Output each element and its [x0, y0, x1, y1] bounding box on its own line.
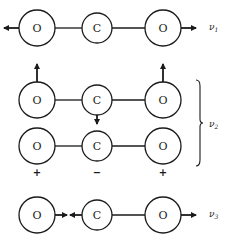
- mode-label-v1: ν1: [209, 22, 218, 33]
- mode-v2-row-a: O C O: [19, 64, 181, 124]
- atom-label: O: [158, 140, 167, 153]
- atom-label: O: [32, 209, 41, 222]
- atom-label: O: [32, 140, 41, 153]
- mode-v3-row: O C O ν3: [19, 197, 218, 233]
- plus-sign: +: [33, 167, 41, 178]
- mode-v2-row-b: O C O + − +: [19, 128, 181, 178]
- atom-label: O: [158, 22, 167, 35]
- brace-icon: [196, 80, 203, 166]
- mode-v1-row: O C O ν1: [4, 10, 218, 46]
- atom-label: C: [93, 22, 101, 35]
- mode-label-v3: ν3: [209, 209, 218, 220]
- co2-vibration-diagram: O C O ν1 O C O O C O + − + ν2: [0, 0, 225, 243]
- atom-label: O: [32, 94, 41, 107]
- atom-label: C: [93, 140, 101, 153]
- minus-sign: −: [93, 167, 101, 178]
- atom-label: O: [158, 94, 167, 107]
- plus-sign: +: [159, 167, 167, 178]
- atom-label: C: [93, 209, 101, 222]
- atom-label: O: [32, 22, 41, 35]
- atom-label: O: [158, 209, 167, 222]
- mode-label-v2: ν2: [209, 119, 218, 130]
- atom-label: C: [93, 94, 101, 107]
